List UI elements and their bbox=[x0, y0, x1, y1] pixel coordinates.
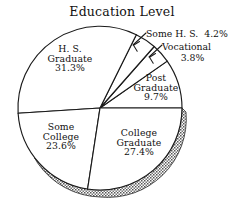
pie-slices bbox=[18, 26, 182, 190]
chart-title: Education Level bbox=[0, 4, 244, 19]
slice-some-college bbox=[18, 108, 100, 189]
slice-label-text: Some H. S. bbox=[146, 28, 198, 39]
slice-college-graduate bbox=[88, 108, 182, 190]
pie-chart-figure: Education Level H. S. Graduate 31.3% Som… bbox=[0, 0, 244, 217]
slice-label-vocational: Vocational 3.8% bbox=[162, 41, 211, 63]
slice-label-text: Vocational bbox=[162, 41, 211, 52]
slice-label-some-hs: Some H. S.4.2% bbox=[146, 28, 228, 39]
slice-value-some-hs: 4.2% bbox=[204, 28, 228, 39]
slice-value-vocational: 3.8% bbox=[162, 52, 211, 63]
